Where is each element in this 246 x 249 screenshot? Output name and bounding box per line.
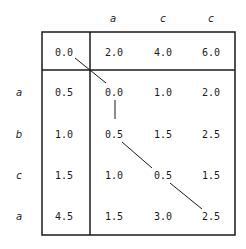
row-header: b <box>16 129 22 140</box>
matrix-cell: 0.0 <box>105 87 123 98</box>
matrix-cell: 2.5 <box>202 129 220 140</box>
matrix-cell: 1.5 <box>154 129 172 140</box>
matrix-cell: 4.0 <box>154 47 172 58</box>
matrix-cell: 0.5 <box>55 87 73 98</box>
matrix-cell: 1.0 <box>55 129 73 140</box>
matrix-cell: 1.5 <box>55 170 73 181</box>
matrix-cell: 1.5 <box>202 170 220 181</box>
matrix-cell: 0.0 <box>55 47 73 58</box>
matrix-cell: 3.0 <box>154 211 172 222</box>
matrix-cell: 1.0 <box>105 170 123 181</box>
matrix-cell: 4.5 <box>55 211 73 222</box>
column-header: c <box>208 13 214 24</box>
row-header: a <box>16 87 22 98</box>
column-header: a <box>110 13 116 24</box>
alignment-path <box>75 58 202 209</box>
row-header: c <box>16 170 22 181</box>
matrix-cell: 0.5 <box>154 170 172 181</box>
matrix-cell: 2.0 <box>202 87 220 98</box>
row-header: a <box>16 211 22 222</box>
matrix-cell: 0.5 <box>105 129 123 140</box>
matrix-cell: 1.5 <box>105 211 123 222</box>
matrix-cell: 1.0 <box>154 87 172 98</box>
matrix-cell: 2.0 <box>105 47 123 58</box>
matrix-cell: 6.0 <box>202 47 220 58</box>
matrix-cell: 2.5 <box>202 211 220 222</box>
column-header: c <box>160 13 166 24</box>
